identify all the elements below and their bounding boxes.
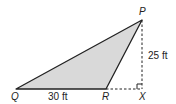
triangle-diagram: P Q R X 30 ft 25 ft [0, 0, 176, 104]
vertex-label-x: X [138, 91, 146, 102]
measurement-qr: 30 ft [48, 91, 68, 102]
right-angle-marker [137, 84, 142, 89]
vertex-label-p: P [139, 6, 146, 17]
vertex-label-q: Q [11, 91, 19, 102]
triangle-pqr [16, 20, 142, 89]
vertex-label-r: R [102, 91, 109, 102]
measurement-px: 25 ft [148, 50, 168, 61]
